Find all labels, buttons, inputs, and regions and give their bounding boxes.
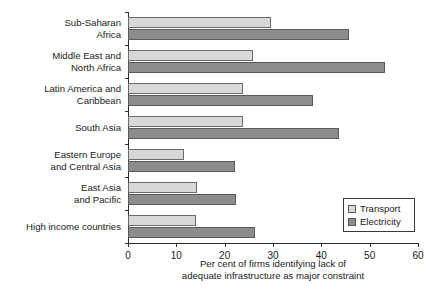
- x-axis-tick: [176, 243, 177, 247]
- bar-electricity: [128, 161, 235, 172]
- y-axis-tick: [125, 111, 128, 112]
- category-label: Latin America and Caribbean: [0, 83, 121, 106]
- x-axis-tick: [273, 243, 274, 247]
- bar-chart: Sub-Saharan AfricaMiddle East and North …: [0, 0, 448, 301]
- x-axis-title: Per cent of firms identifying lack of ad…: [128, 258, 418, 282]
- bar-transport: [128, 182, 197, 193]
- category-axis-labels: Sub-Saharan AfricaMiddle East and North …: [0, 12, 125, 243]
- category-label: High income countries: [0, 221, 121, 233]
- bar-transport: [128, 215, 196, 226]
- bar-transport: [128, 83, 243, 94]
- x-axis-tick: [370, 243, 371, 247]
- category-label: Eastern Europe and Central Asia: [0, 149, 121, 172]
- y-axis-tick: [125, 144, 128, 145]
- y-axis-tick: [125, 12, 128, 13]
- y-axis-tick: [125, 177, 128, 178]
- x-axis-tick: [418, 243, 419, 247]
- x-axis-tick: [225, 243, 226, 247]
- category-label: Middle East and North Africa: [0, 50, 121, 73]
- y-axis-tick: [125, 210, 128, 211]
- bar-transport: [128, 17, 271, 28]
- legend-item-electricity: Electricity: [348, 215, 410, 228]
- legend-swatch-electricity-icon: [348, 218, 356, 226]
- bar-transport: [128, 50, 253, 61]
- y-axis-tick: [125, 78, 128, 79]
- bar-electricity: [128, 95, 313, 106]
- legend-swatch-transport-icon: [348, 205, 356, 213]
- x-axis-tick: [321, 243, 322, 247]
- category-label: East Asia and Pacific: [0, 182, 121, 205]
- bar-electricity: [128, 194, 236, 205]
- category-label: Sub-Saharan Africa: [0, 17, 121, 40]
- y-axis-tick: [125, 45, 128, 46]
- legend-label-transport: Transport: [360, 202, 400, 215]
- chart-legend: Transport Electricity: [343, 198, 415, 232]
- legend-label-electricity: Electricity: [360, 215, 401, 228]
- category-label: South Asia: [0, 122, 121, 134]
- legend-item-transport: Transport: [348, 202, 410, 215]
- bar-electricity: [128, 128, 339, 139]
- bar-electricity: [128, 29, 349, 40]
- bar-electricity: [128, 227, 255, 238]
- bar-transport: [128, 149, 184, 160]
- x-axis-tick: [128, 243, 129, 247]
- bar-transport: [128, 116, 243, 127]
- bar-electricity: [128, 62, 385, 73]
